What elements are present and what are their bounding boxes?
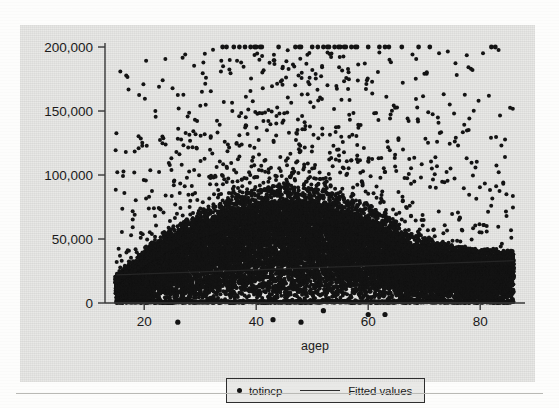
scatter-point (289, 173, 293, 177)
scatter-point (285, 110, 289, 114)
scatter-point (190, 145, 194, 149)
scatter-point (328, 177, 332, 181)
scatter-point (140, 141, 144, 145)
scatter-point (147, 206, 151, 210)
scatter-point (448, 103, 452, 107)
scatter-point (300, 114, 304, 118)
scatter-point (329, 55, 333, 59)
scatter-point (384, 95, 388, 99)
scatter-point (307, 51, 311, 55)
scatter-point (337, 148, 341, 152)
scatter-point (372, 191, 376, 195)
scatter-point (253, 185, 257, 189)
scatter-point (409, 166, 413, 170)
scatter-point (320, 97, 324, 101)
scatter-point (194, 132, 198, 136)
scatter-point (313, 163, 317, 167)
scatter-point (432, 228, 436, 232)
graph-region: 050,000100,000150,000200,000 20406080 ag… (20, 25, 535, 382)
scatter-point (277, 186, 281, 190)
scatter-point (305, 179, 309, 183)
scatter-point (286, 156, 290, 160)
scatter-point (127, 259, 131, 263)
scatter-point (143, 97, 147, 101)
scatter-point (237, 45, 242, 50)
scatter-point (276, 295, 280, 299)
scatter-point (227, 198, 231, 202)
scatter-point (178, 206, 182, 210)
scatter-point (478, 185, 482, 189)
scatter-point (127, 87, 131, 91)
legend-label-fitted-values: Fitted values (348, 385, 412, 397)
scatter-point (225, 180, 229, 184)
scatter-point (351, 111, 355, 115)
scatter-point (199, 276, 203, 280)
scatter-point (278, 155, 282, 159)
scatter-point (154, 224, 158, 228)
scatter-point (467, 193, 471, 197)
scatter-point (293, 185, 297, 189)
scatter-point (234, 170, 238, 174)
scatter-point (339, 135, 343, 139)
scatter-point (333, 187, 337, 191)
scatter-point (230, 180, 234, 184)
legend-entry-fitted-values[interactable]: Fitted values (282, 379, 412, 402)
scatter-point (275, 106, 279, 110)
scatter-point (120, 259, 124, 263)
scatter-point (209, 89, 213, 93)
scatter-point (183, 184, 187, 188)
scatter-point (153, 235, 157, 239)
x-tick-label: 40 (249, 314, 264, 329)
legend-entry-totincp[interactable]: totincp (237, 379, 282, 402)
scatter-point (216, 131, 220, 135)
scatter-point (122, 191, 126, 195)
scatter-point (153, 214, 157, 218)
scatter-point (126, 248, 130, 252)
scatter-point (474, 197, 478, 201)
scatter-point (395, 105, 399, 109)
scatter-point (403, 220, 407, 224)
scatter-point (216, 188, 220, 192)
scatter-point (215, 229, 219, 233)
scatter-point (363, 207, 367, 211)
scatter-point (286, 48, 290, 52)
scatter-point (181, 143, 185, 147)
scatter-point (240, 184, 244, 188)
scatter-point (302, 165, 306, 169)
scatter-point (203, 52, 207, 56)
scatter-point (435, 140, 439, 144)
scatter-point (118, 69, 122, 73)
scatter-point (501, 182, 505, 186)
scatter-point (181, 93, 185, 97)
scatter-point (139, 136, 143, 140)
scatter-point (511, 255, 515, 259)
scatter-point (453, 61, 457, 65)
scatter-point (470, 68, 474, 72)
scatter-point (462, 186, 466, 190)
scatter-point (231, 45, 236, 50)
scatter-point (486, 247, 490, 251)
scatter-point (274, 133, 278, 137)
scatter-point (280, 121, 284, 125)
scatter-point (382, 166, 386, 170)
scatter-point (236, 179, 240, 183)
scatter-point (230, 109, 234, 113)
scatter-point (270, 84, 274, 88)
scatter-point (511, 277, 515, 281)
scatter-point (489, 136, 493, 140)
scatter-point (426, 141, 430, 145)
scatter-point (490, 196, 494, 200)
scatter-point (309, 183, 313, 187)
chart-legend[interactable]: totincp Fitted values (226, 378, 425, 403)
scatter-point (411, 201, 415, 205)
scatter-point (280, 78, 284, 82)
scatter-point (221, 162, 225, 166)
scatter-point (445, 170, 449, 174)
scatter-point (296, 117, 300, 121)
scatter-point (310, 68, 314, 72)
scatter-point (340, 187, 344, 191)
scatter-point (498, 189, 502, 193)
scatter-point (387, 216, 391, 220)
scatter-point (191, 211, 195, 215)
scatter-point (300, 71, 304, 75)
